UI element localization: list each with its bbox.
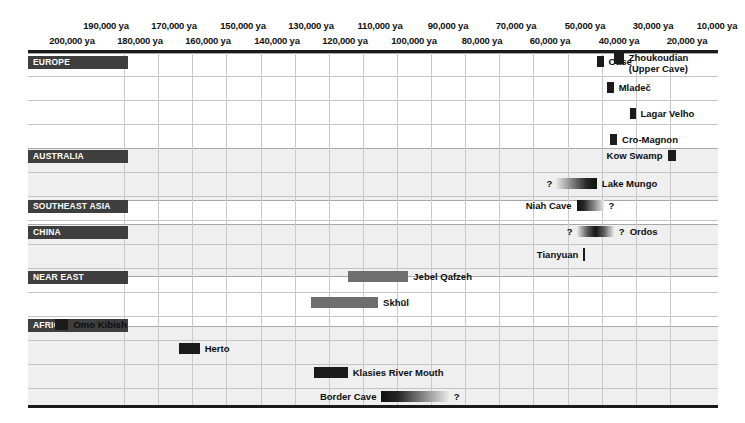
gridline — [261, 53, 262, 405]
gridline — [295, 53, 296, 405]
axis-tick-label: 160,000 ya — [185, 35, 231, 46]
row-separator — [28, 220, 718, 221]
axis-tick-label: 120,000 ya — [322, 35, 368, 46]
region-label-europe: EUROPE — [28, 56, 128, 69]
gridline — [158, 53, 159, 405]
axis-rule-bottom — [28, 405, 718, 408]
row-separator — [28, 172, 718, 173]
site-bar — [630, 108, 635, 119]
time-axis: 190,000 ya170,000 ya150,000 ya130,000 ya… — [0, 0, 745, 50]
site-bar — [614, 53, 624, 64]
site-label: Niah Cave — [526, 200, 572, 211]
site-label: Klasies River Mouth — [353, 367, 444, 378]
region-label-near-east: NEAR EAST — [28, 271, 128, 284]
uncertainty-marker: ? — [567, 226, 573, 237]
gridline — [431, 53, 432, 405]
site-bar — [577, 200, 604, 211]
site-label: Herto — [205, 343, 230, 354]
site-bar — [583, 248, 585, 261]
site-label: Lagar Velho — [641, 108, 695, 119]
row-separator — [28, 124, 718, 125]
site-label: Jebel Qafzeh — [413, 271, 472, 282]
site-bar — [348, 271, 409, 282]
region-label-australia: AUSTRALIA — [28, 150, 128, 163]
axis-tick-label: 200,000 ya — [49, 35, 95, 46]
axis-tick-label: 20,000 ya — [667, 35, 707, 46]
uncertainty-marker: ? — [454, 391, 460, 402]
region-label-southeast-asia: SOUTHEAST ASIA — [28, 200, 128, 213]
site-bar — [55, 319, 68, 330]
uncertainty-marker: ? — [609, 200, 615, 211]
plot-area: EUROPEAUSTRALIASOUTHEAST ASIACHINANEAR E… — [28, 53, 718, 405]
axis-tick-label: 80,000 ya — [462, 35, 502, 46]
site-bar — [381, 391, 448, 402]
site-label: Zhoukoudian (Upper Cave) — [629, 53, 718, 74]
axis-tick-label: 90,000 ya — [428, 20, 468, 31]
site-bar — [577, 226, 614, 237]
gridline — [363, 53, 364, 405]
site-bar — [610, 134, 617, 145]
site-label: Lake Mungo — [602, 178, 657, 189]
row-separator — [28, 388, 718, 389]
axis-tick-label: 130,000 ya — [288, 20, 334, 31]
axis-tick-label: 40,000 ya — [599, 35, 639, 46]
band-boundary — [28, 224, 718, 225]
row-separator — [28, 268, 718, 269]
row-separator — [28, 76, 718, 77]
site-label: Tianyuan — [537, 249, 579, 260]
site-bar — [668, 150, 676, 161]
site-label: Mladeč — [619, 82, 651, 93]
axis-tick-label: 60,000 ya — [530, 35, 570, 46]
row-separator — [28, 316, 718, 317]
gridline — [670, 53, 671, 405]
region-label-china: CHINA — [28, 226, 128, 239]
axis-tick-label: 140,000 ya — [254, 35, 300, 46]
axis-tick-label: 110,000 ya — [357, 20, 402, 31]
row-separator — [28, 292, 718, 293]
site-bar — [314, 367, 348, 378]
site-bar — [179, 343, 199, 354]
axis-tick-label: 10,000 ya — [697, 20, 737, 31]
site-label: Skhūl — [383, 297, 409, 308]
site-label: Kow Swamp — [607, 150, 663, 161]
axis-tick-label: 180,000 ya — [117, 35, 163, 46]
axis-tick-label: 100,000 ya — [391, 35, 437, 46]
axis-tick-label: 70,000 ya — [496, 20, 536, 31]
gridline — [465, 53, 466, 405]
timeline-chart: 190,000 ya170,000 ya150,000 ya130,000 ya… — [0, 0, 745, 423]
row-separator — [28, 364, 718, 365]
site-label: Cro-Magnon — [622, 134, 678, 145]
band-boundary — [28, 148, 718, 149]
site-bar — [597, 56, 604, 67]
row-separator — [28, 100, 718, 101]
site-bar — [607, 82, 614, 93]
gridline — [329, 53, 330, 405]
band-boundary — [28, 200, 718, 201]
band-boundary — [28, 326, 718, 327]
site-bar — [556, 178, 596, 189]
site-bar — [311, 297, 378, 308]
axis-tick-label: 170,000 ya — [151, 20, 197, 31]
row-separator — [28, 244, 718, 245]
axis-tick-label: 30,000 ya — [633, 20, 673, 31]
site-label: Border Cave — [320, 391, 377, 402]
row-separator — [28, 196, 718, 197]
uncertainty-marker: ? — [619, 226, 625, 237]
row-separator — [28, 340, 718, 341]
gridline — [499, 53, 500, 405]
gridline — [533, 53, 534, 405]
gridline — [397, 53, 398, 405]
uncertainty-marker: ? — [546, 178, 552, 189]
site-label: Ordos — [630, 226, 658, 237]
axis-tick-label: 50,000 ya — [565, 20, 605, 31]
site-label: Omo Kibish — [73, 319, 126, 330]
axis-tick-label: 150,000 ya — [220, 20, 266, 31]
axis-tick-label: 190,000 ya — [83, 20, 129, 31]
